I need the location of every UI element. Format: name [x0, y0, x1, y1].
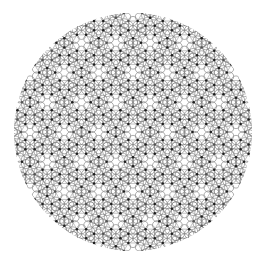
node-dot [124, 42, 127, 45]
node-dot [33, 139, 36, 142]
node-dot [179, 109, 182, 112]
node-dot [208, 101, 211, 104]
node-dot [213, 59, 216, 62]
node-dot [102, 54, 105, 57]
node-dot [175, 131, 178, 134]
node-dot [205, 114, 208, 117]
node-dot [200, 156, 203, 159]
node-dot [235, 165, 238, 168]
node-dot [171, 198, 174, 201]
node-dot [33, 148, 36, 151]
node-dot [46, 76, 49, 79]
node-dot [41, 143, 44, 146]
node-dot [230, 123, 233, 126]
node-dot [110, 143, 113, 146]
node-dot [63, 106, 66, 109]
node-dot [188, 50, 191, 53]
node-dot [136, 198, 139, 201]
node-dot [205, 148, 208, 151]
node-dot [115, 16, 118, 19]
node-dot [76, 93, 79, 96]
node-dot [205, 198, 208, 201]
node-dot [141, 190, 144, 193]
node-dot [136, 207, 139, 210]
node-dot [157, 131, 160, 134]
node-dot [205, 182, 208, 185]
node-dot [41, 178, 44, 181]
node-dot [222, 84, 225, 87]
node-dot [136, 20, 139, 23]
node-dot [119, 118, 122, 121]
node-dot [115, 67, 118, 70]
node-dot [71, 160, 74, 163]
node-dot [127, 29, 130, 32]
node-dot [93, 198, 96, 201]
node-dot [179, 93, 182, 96]
node-dot [127, 207, 130, 210]
node-dot [161, 198, 164, 201]
node-dot [161, 148, 164, 151]
node-dot [29, 156, 32, 159]
node-dot [119, 34, 122, 37]
node-dot [239, 88, 242, 91]
node-dot [175, 71, 178, 74]
node-dot [161, 207, 164, 210]
node-dot [158, 42, 161, 45]
node-dot [33, 173, 36, 176]
node-dot [149, 195, 152, 198]
node-dot [38, 190, 41, 193]
node-dot [110, 24, 113, 27]
node-dot [93, 182, 96, 185]
node-dot [124, 220, 127, 223]
node-dot [213, 84, 216, 87]
node-dot [213, 109, 216, 112]
node-dot [154, 34, 157, 37]
node-dot [161, 54, 164, 57]
node-dot [29, 106, 32, 109]
node-dot [171, 123, 174, 126]
node-dot [41, 153, 44, 156]
node-dot [68, 114, 71, 117]
node-dot [68, 54, 71, 57]
node-dot [107, 71, 110, 74]
node-dot [154, 237, 157, 240]
node-dot [230, 173, 233, 176]
node-dot [247, 143, 250, 146]
node-dot [132, 46, 135, 49]
node-dot [222, 178, 225, 181]
node-dot [230, 148, 233, 151]
node-dot [196, 79, 199, 82]
node-dot [63, 165, 66, 168]
node-dot [102, 79, 105, 82]
node-dot [154, 228, 157, 231]
node-dot [107, 131, 110, 134]
node-dot [166, 215, 169, 218]
node-dot [127, 88, 130, 91]
node-dot [110, 237, 113, 240]
node-dot [144, 84, 147, 87]
node-dot [226, 71, 229, 74]
node-dot [51, 59, 54, 62]
node-dot [132, 225, 135, 228]
node-dot [51, 109, 54, 112]
node-dot [191, 190, 194, 193]
node-dot [136, 114, 139, 117]
node-dot [213, 178, 216, 181]
node-dot [127, 20, 130, 23]
node-dot [161, 114, 164, 117]
node-dot [127, 148, 130, 151]
quasicrystal-tiling-graphic [0, 0, 263, 264]
node-dot [222, 143, 225, 146]
node-dot [171, 54, 174, 57]
node-dot [97, 156, 100, 159]
node-dot [51, 212, 54, 215]
node-dot [171, 148, 174, 151]
node-dot [132, 156, 135, 159]
node-dot [21, 101, 24, 104]
node-dot [58, 207, 61, 210]
node-dot [136, 123, 139, 126]
node-dot [93, 123, 96, 126]
node-dot [149, 245, 152, 248]
node-dot [119, 59, 122, 62]
node-dot [72, 131, 75, 134]
